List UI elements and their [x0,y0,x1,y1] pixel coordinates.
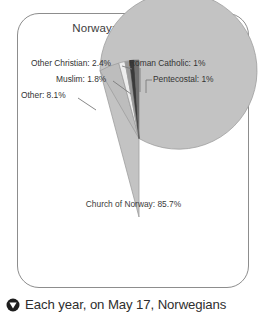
caption: Each year, on May 17, Norwegians [6,297,226,312]
pie-chart-plot [0,0,267,321]
pie-label-muslim: Muslim: 1.8% [56,75,106,84]
map-marker-icon [6,298,20,312]
pie-label-other: Other: 8.1% [21,91,66,100]
pie-label-church-of-norway: Church of Norway: 85.7% [0,199,267,209]
leader-line-other [78,98,96,110]
pie-label-pentecostal: Pentecostal: 1% [153,75,214,84]
caption-text: Each year, on May 17, Norwegians [25,297,226,312]
pie-label-roman-catholic: Roman Catholic: 1% [129,59,205,68]
pie-label-other-christian: Other Christian: 2.4% [31,59,111,68]
